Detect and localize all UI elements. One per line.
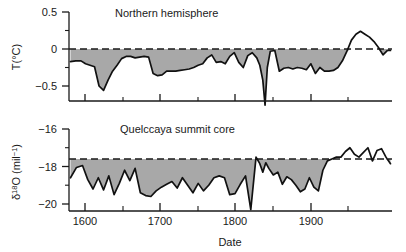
top-ytick-label-0: 0.5	[42, 6, 57, 18]
panel-quelccaya-summit-core: −16 −18 −20 Quelccaya summit core δ18O (…	[10, 123, 393, 248]
top-panel-title: Northern hemisphere	[115, 7, 218, 19]
xtick-label-2: 1800	[223, 215, 247, 227]
climate-chart-svg: 0.5 0 −0.5 Northern hemisphere T(°C)	[0, 0, 406, 252]
bottom-panel-title: Quelccaya summit core	[120, 123, 235, 135]
top-panel-data-line	[71, 31, 391, 105]
svg-text:δ18O (mil−1): δ18O (mil−1)	[10, 144, 23, 200]
top-panel-area-fill	[71, 49, 391, 105]
bottom-ytick-label-1: −18	[38, 161, 57, 173]
bottom-y-axis-title-sup18: 18	[10, 186, 19, 194]
xtick-label-0: 1600	[73, 215, 97, 227]
top-ytick-label-1: 0	[51, 43, 57, 55]
top-y-axis-title: T(°C)	[10, 44, 22, 70]
top-ytick-label-2: −0.5	[35, 80, 57, 92]
bottom-y-axis-title-mid: O (mil	[10, 156, 22, 185]
xtick-label-3: 1900	[299, 215, 323, 227]
xtick-label-1: 1700	[148, 215, 172, 227]
bottom-y-axis-title-supminus1: −1	[10, 148, 19, 157]
bottom-ytick-label-0: −16	[38, 123, 57, 135]
panel-northern-hemisphere: 0.5 0 −0.5 Northern hemisphere T(°C)	[10, 6, 392, 105]
figure-container: 0.5 0 −0.5 Northern hemisphere T(°C)	[0, 0, 406, 252]
bottom-y-axis-title-end: )	[10, 144, 22, 148]
top-y-axis-title-text: T(°C)	[10, 44, 22, 70]
bottom-ytick-label-2: −20	[38, 198, 57, 210]
x-axis-title: Date	[218, 236, 241, 248]
bottom-y-axis-title: δ18O (mil−1)	[10, 144, 23, 200]
